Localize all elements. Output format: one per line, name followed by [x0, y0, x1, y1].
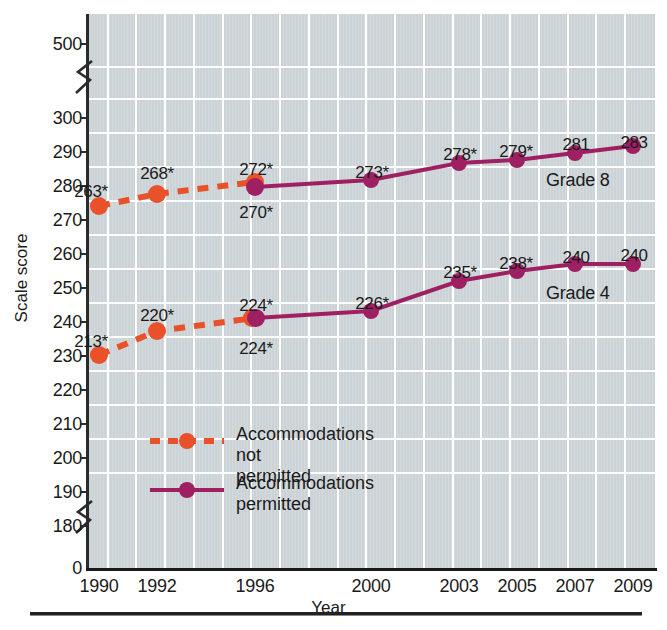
- data-label: 240: [562, 249, 589, 266]
- data-label: 224*: [239, 340, 272, 357]
- data-label: 240: [620, 247, 647, 264]
- data-label: 283: [620, 134, 647, 151]
- legend-label-line1: Accommodations not: [236, 424, 374, 466]
- data-label: 238*: [499, 255, 532, 272]
- data-label: 281: [562, 136, 589, 153]
- series-annotation-grade8: Grade 8: [546, 170, 610, 191]
- data-label: 224*: [239, 297, 272, 314]
- data-label: 268*: [140, 165, 173, 182]
- data-label: 278*: [443, 146, 476, 163]
- data-label: 220*: [140, 307, 173, 324]
- data-label: 273*: [355, 164, 388, 181]
- data-label: 263*: [74, 183, 107, 200]
- data-label: 235*: [443, 264, 476, 281]
- line-grade8-not-permitted: [99, 182, 255, 206]
- marker-grade8-not-permitted: [148, 185, 166, 203]
- chart-figure: 500 300 290 280 270 260 250 240 230 220 …: [0, 0, 667, 630]
- legend-key-dashed-orange: [150, 432, 224, 450]
- legend-label-line1: Accommodations permitted: [236, 473, 374, 515]
- data-label: 272*: [239, 161, 272, 178]
- marker-grade8-permitted: [246, 178, 264, 196]
- series-layer: [0, 0, 667, 630]
- legend-label-permitted: Accommodations permitted: [236, 473, 374, 515]
- series-annotation-grade4: Grade 4: [546, 283, 610, 304]
- legend-key-solid-purple: [150, 481, 224, 499]
- line-grade4-not-permitted: [99, 318, 255, 355]
- data-label: 279*: [499, 143, 532, 160]
- data-label: 213*: [74, 333, 107, 350]
- data-label: 270*: [239, 204, 272, 221]
- footer-rule: [30, 612, 642, 615]
- data-label: 226*: [355, 295, 388, 312]
